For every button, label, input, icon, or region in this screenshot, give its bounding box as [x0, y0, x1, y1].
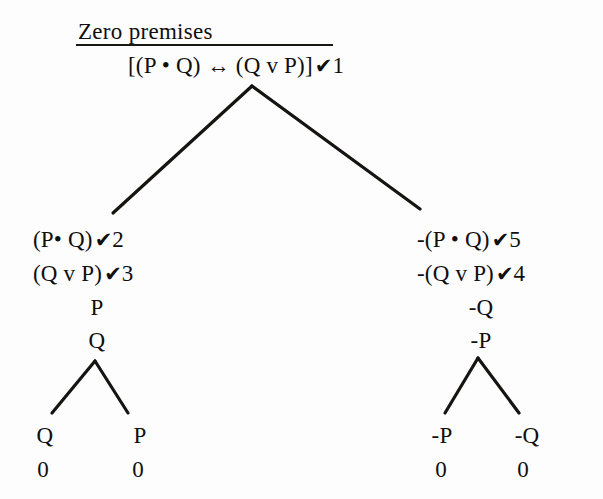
- left-terminal-2-open-marker: 0: [132, 458, 144, 481]
- right-subfork-right-line: [478, 358, 519, 413]
- left-branch-line-1: (P• Q)✔2: [33, 228, 124, 251]
- root-formula-number: 1: [332, 53, 344, 78]
- check-icon: ✔: [102, 262, 122, 286]
- left-terminal-1-label: Q: [37, 424, 54, 447]
- left-branch-stack-item-2: Q: [89, 329, 106, 352]
- root-formula-text: [(P • Q) ↔ (Q v P)]: [128, 53, 313, 78]
- root-formula: [(P • Q) ↔ (Q v P)]✔1: [128, 54, 344, 77]
- right-branch-line-2-text: -(Q v P): [417, 261, 494, 286]
- left-branch-line-2-number: 3: [122, 261, 134, 286]
- check-icon: ✔: [490, 228, 510, 252]
- right-branch-line-1-number: 5: [509, 227, 521, 252]
- left-terminal-2-label: P: [134, 424, 147, 447]
- right-terminal-1-open-marker: 0: [435, 458, 447, 481]
- right-branch-stack-item-1: -Q: [469, 296, 494, 319]
- right-terminal-1-label: -P: [432, 424, 453, 447]
- check-icon: ✔: [93, 228, 113, 252]
- right-branch-line-1: -(P • Q)✔5: [417, 228, 521, 251]
- left-branch-line-2: (Q v P)✔3: [33, 262, 133, 285]
- left-subfork-right-line: [95, 361, 128, 413]
- left-branch-line-1-text: (P• Q): [33, 227, 93, 252]
- left-terminal-1-open-marker: 0: [37, 458, 49, 481]
- left-branch-stack-item-1: P: [91, 296, 104, 319]
- right-branch-line-1-text: -(P • Q): [417, 227, 490, 252]
- right-terminal-2-open-marker: 0: [517, 458, 529, 481]
- right-subfork-left-line: [445, 358, 478, 413]
- left-branch-line-1-number: 2: [112, 227, 124, 252]
- right-branch-line-2: -(Q v P)✔4: [417, 262, 525, 285]
- left-branch-line-2-text: (Q v P): [33, 261, 102, 286]
- check-icon: ✔: [494, 262, 514, 286]
- right-terminal-2-label: -Q: [515, 424, 540, 447]
- main-fork-right-line: [252, 86, 420, 209]
- truth-tree-diagram: Zero premises [(P • Q) ↔ (Q v P)]✔1 (P• …: [0, 0, 603, 499]
- right-branch-stack-item-2: -P: [471, 329, 492, 352]
- title-underline: [76, 44, 333, 46]
- diagram-title: Zero premises: [78, 20, 213, 43]
- main-fork-left-line: [113, 86, 252, 213]
- right-branch-line-2-number: 4: [514, 261, 526, 286]
- check-icon: ✔: [313, 54, 333, 78]
- left-subfork-left-line: [52, 361, 95, 413]
